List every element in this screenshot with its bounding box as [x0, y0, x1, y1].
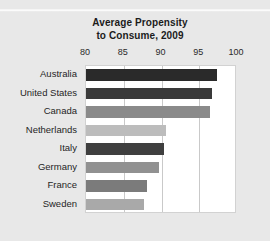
bar-france	[86, 180, 147, 192]
bar-row	[86, 85, 235, 104]
y-axis-category-labels: AustraliaUnited StatesCanadaNetherlandsI…	[0, 65, 81, 213]
y-label-sweden: Sweden	[0, 195, 81, 214]
chart-title-line-2: to Consume, 2009	[55, 30, 225, 43]
y-label-netherlands: Netherlands	[0, 121, 81, 140]
bar-row	[86, 122, 235, 141]
y-label-australia: Australia	[0, 65, 81, 84]
bar-row	[86, 177, 235, 196]
bar-netherlands	[86, 125, 166, 137]
bar-australia	[86, 69, 217, 81]
x-axis-tick-labels: 80859095100	[85, 47, 236, 60]
bar-row	[86, 103, 235, 122]
y-label-united-states: United States	[0, 84, 81, 103]
bar-row	[86, 159, 235, 178]
y-label-france: France	[0, 176, 81, 195]
bar-canada	[86, 106, 210, 118]
chart-title: Average Propensity to Consume, 2009	[55, 17, 225, 42]
x-tick-label-85: 85	[118, 47, 128, 57]
chart-figure: Average Propensity to Consume, 2009 8085…	[0, 0, 270, 241]
x-tick-label-90: 90	[155, 47, 165, 57]
bar-row	[86, 140, 235, 159]
x-tick-label-95: 95	[193, 47, 203, 57]
bar-row	[86, 196, 235, 215]
y-label-germany: Germany	[0, 158, 81, 177]
bar-italy	[86, 143, 164, 155]
bar-sweden	[86, 199, 144, 211]
y-label-italy: Italy	[0, 139, 81, 158]
bar-united-states	[86, 88, 212, 100]
bar-germany	[86, 162, 159, 174]
x-tick-label-80: 80	[80, 47, 90, 57]
x-tick-label-100: 100	[228, 47, 243, 57]
bar-row	[86, 66, 235, 85]
y-label-canada: Canada	[0, 102, 81, 121]
chart-title-line-1: Average Propensity	[55, 17, 225, 30]
bar-series	[86, 66, 235, 212]
plot-area	[85, 65, 236, 213]
